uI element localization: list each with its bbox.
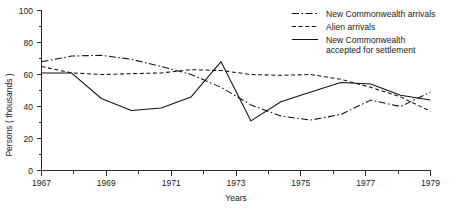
legend: New Commonwealth arrivals Alien arrivals… [292, 9, 435, 55]
x-tick-label-1973: 1973 [227, 178, 246, 188]
y-tick-label-20: 20 [24, 134, 34, 144]
y-tick-label-80: 80 [24, 38, 34, 48]
x-tick-label-1969: 1969 [97, 178, 116, 188]
legend-label-accepted-for-settlement-line1: New Commonwealth [326, 35, 406, 45]
legend-label-accepted-for-settlement-line2: accepted for settlement [326, 45, 416, 55]
y-tick-label-60: 60 [24, 70, 34, 80]
series-line-alien-arrivals [42, 67, 431, 112]
y-tick-label-100: 100 [19, 6, 33, 16]
y-tick-label-0: 0 [28, 166, 33, 176]
x-tick-label-1979: 1979 [421, 178, 440, 188]
x-axis-major-ticks [42, 171, 431, 176]
x-tick-label-1967: 1967 [32, 178, 51, 188]
line-chart: 0 20 40 60 80 100 Persons ( thousands ) [0, 0, 458, 209]
x-axis-title: Years [225, 193, 246, 203]
chart-container: 0 20 40 60 80 100 Persons ( thousands ) [0, 0, 458, 209]
y-tick-label-40: 40 [24, 102, 34, 112]
series-line-accepted-for-settlement [42, 62, 431, 121]
x-tick-label-1971: 1971 [162, 178, 181, 188]
legend-label-new-commonwealth-arrivals: New Commonwealth arrivals [326, 9, 435, 19]
y-axis-title: Persons ( thousands ) [4, 73, 14, 156]
x-tick-label-1977: 1977 [356, 178, 375, 188]
x-tick-label-1975: 1975 [291, 178, 310, 188]
legend-label-alien-arrivals: Alien arrivals [326, 22, 375, 32]
